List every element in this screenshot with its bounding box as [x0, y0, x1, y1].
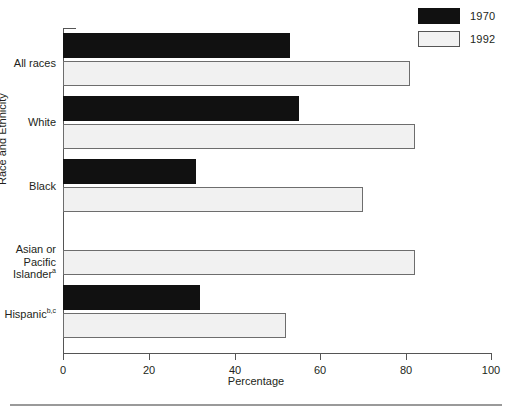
x-tick-0: [63, 354, 64, 360]
y-tick-label-hispanic: Hispanicb,c: [4, 308, 56, 321]
y-tick-text-asian-line2: Pacific: [13, 256, 56, 269]
bar-hispanic-1992: [63, 313, 286, 338]
footnote-marker-asian: a: [52, 267, 56, 274]
y-axis-title: Race and Ethnicity: [0, 93, 8, 185]
axis-top-stub: [63, 28, 76, 29]
y-tick-text-asian-line3: Islandera: [13, 268, 56, 281]
y-tick-text-black: Black: [29, 180, 56, 192]
bar-asian-or-pacific-islander-1992: [63, 250, 415, 275]
x-tick-20: [149, 354, 150, 360]
footer-rule: [10, 404, 502, 406]
bar-black-1992: [63, 187, 363, 212]
bar-chart-figure: 1970 1992 Race and Ethnicity All races W…: [0, 0, 512, 414]
y-tick-text-all-races: All races: [14, 57, 56, 69]
bar-hispanic-1970: [63, 285, 200, 310]
bar-white-1970: [63, 96, 299, 121]
x-tick-100: [491, 354, 492, 360]
bar-all-races-1992: [63, 61, 410, 86]
bar-black-1970: [63, 159, 196, 184]
legend-label-1970: 1970: [470, 10, 495, 22]
x-axis-line: [63, 353, 492, 354]
x-tick-60: [320, 354, 321, 360]
y-tick-label-white: White: [28, 116, 56, 129]
footnote-marker-hispanic: b,c: [47, 307, 56, 314]
x-tick-40: [235, 354, 236, 360]
y-tick-text-asian-line1: Asian or: [13, 243, 56, 256]
x-tick-80: [406, 354, 407, 360]
plot-area: 0 20 40 60 80 100: [63, 28, 492, 353]
bar-white-1992: [63, 124, 415, 149]
x-axis-title: Percentage: [0, 375, 512, 387]
y-tick-label-asian-pacific-islander: Asian or Pacific Islandera: [13, 243, 56, 281]
legend-swatch-1970: [418, 8, 460, 24]
legend-item-1970: 1970: [418, 6, 508, 26]
y-tick-text-hispanic: Hispanic: [4, 308, 46, 320]
y-tick-label-black: Black: [29, 180, 56, 193]
bar-all-races-1970: [63, 33, 290, 58]
y-tick-label-all-races: All races: [14, 57, 56, 70]
y-tick-text-white: White: [28, 116, 56, 128]
